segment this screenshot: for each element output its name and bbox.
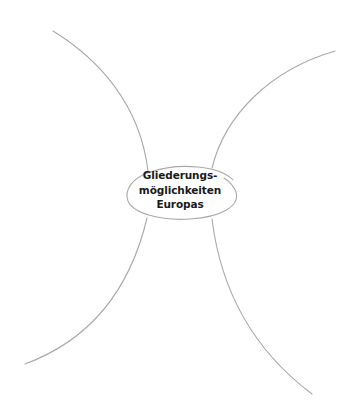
center-node-line-1: Gliederungs- [124,168,236,183]
branch-bottom-left [25,218,147,364]
branch-top-left [53,31,148,171]
center-node-line-2: möglichkeiten [124,183,236,198]
branch-top-right [212,51,335,168]
branch-bottom-right [212,219,312,394]
center-node-line-3: Europas [124,197,236,212]
center-node-label: Gliederungs- möglichkeiten Europas [124,168,236,212]
